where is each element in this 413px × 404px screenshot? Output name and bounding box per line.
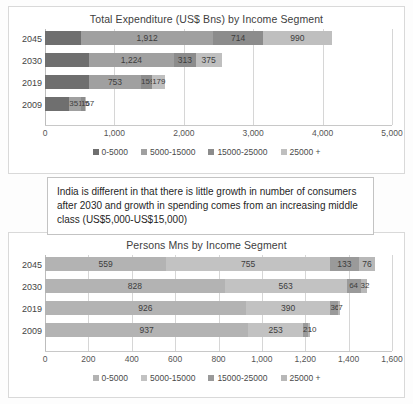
cat-label-2019: 2019 [22,305,42,314]
bar-row-2045[interactable]: 1,912 714 990 [45,31,392,45]
callout-textbox: India is different in that there is litt… [47,177,374,235]
cat-label-2019: 2019 [22,79,42,88]
bar-segment-5000-15000: 253 [248,323,303,337]
xtick: 1,400 [338,354,359,364]
legend-item-5000-15000[interactable]: 5000-15000 [141,373,195,383]
bar-segment-15000-25000: 64 [347,279,361,293]
bar-label: 32 [361,282,368,290]
bar-label: 390 [246,304,331,313]
bar-segment-25000-plus: 179 [152,75,164,89]
bar-segment-5000-15000: 351 [69,97,81,111]
legend-swatch-icon [93,375,99,381]
bar-segment-15000-25000: 714 [213,31,263,45]
chart-title-expenditure: Total Expenditure (US$ Bns) by Income Se… [9,7,404,25]
cat-label-2045: 2045 [22,35,42,44]
bar-label: 64 [347,282,361,290]
legend-persons: 0-5000 5000-15000 15000-25000 25000 + [9,373,404,383]
xtick: 0 [43,128,48,138]
bar-segment-0-5000 [45,53,89,67]
bar-row-2019[interactable]: 926 390 36 7 [45,301,392,315]
gridline [392,29,393,125]
cat-label-2030: 2030 [22,283,42,292]
bar-label: 714 [213,34,263,43]
xtick: 1,200 [295,354,316,364]
xtick: 1,000 [104,128,125,138]
plot-area-expenditure: 1,912 714 990 1,224 313 [45,29,392,125]
legend-swatch-icon [141,149,147,155]
bar-segment-5000-15000: 1,224 [89,53,174,67]
legend-label: 25000 + [290,373,321,383]
bar-label: 133 [330,260,359,269]
bar-label: 253 [248,326,303,335]
bar-label: 10 [308,326,310,334]
xtick: 3,000 [243,128,264,138]
legend-swatch-icon [281,375,287,381]
value-axis-persons: 0 200 400 600 800 1,000 1,200 1,400 1,60… [45,351,392,368]
bar-row-2019[interactable]: 753 159 179 [45,75,392,89]
bar-segment-5000-15000: 1,912 [81,31,214,45]
legend-label: 25000 + [290,147,321,157]
legend-item-0-5000[interactable]: 0-5000 [93,373,128,383]
expenditure-chart: Total Expenditure (US$ Bns) by Income Se… [8,6,405,174]
xtick: 0 [43,354,48,364]
legend-item-15000-25000[interactable]: 15000-25000 [208,147,267,157]
bar-label: 753 [89,78,141,87]
legend-label: 15000-25000 [217,373,267,383]
bar-segment-15000-25000: 313 [174,53,196,67]
bar-label: 828 [45,282,225,291]
bar-label: 926 [45,304,246,313]
xtick: 1,000 [251,354,272,364]
bar-segment-15000-25000: 133 [330,257,359,271]
bar-segment-5000-15000: 753 [89,75,141,89]
xtick: 4,000 [312,128,333,138]
legend-swatch-icon [281,149,287,155]
bar-segment-25000-plus: 375 [196,53,222,67]
bar-segment-25000-plus: 990 [263,31,332,45]
bar-segment-15000-25000: 159 [141,75,152,89]
bar-segment-0-5000: 828 [45,279,225,293]
bar-row-2030[interactable]: 828 563 64 32 [45,279,392,293]
legend-item-0-5000[interactable]: 0-5000 [93,147,128,157]
value-axis-expenditure: 0 1,000 2,000 3,000 4,000 5,000 [45,125,392,142]
bar-label: 563 [225,282,347,291]
xtick: 800 [211,354,225,364]
bar-segment-0-5000: 926 [45,301,246,315]
chart-title-persons: Persons Mns by Income Segment [9,233,404,251]
legend-item-5000-15000[interactable]: 5000-15000 [141,147,195,157]
cat-label-2030: 2030 [22,57,42,66]
bar-segment-5000-15000: 563 [225,279,347,293]
legend-item-25000-plus[interactable]: 25000 + [281,147,321,157]
xtick: 5,000 [381,128,402,138]
bar-segment-0-5000 [45,75,89,89]
gridline [392,255,393,351]
bar-label: 375 [196,56,222,65]
bar-segment-0-5000 [45,31,81,45]
plot-expenditure: 2045 2030 2019 2009 1,912 [9,29,404,125]
bar-segment-25000-plus: 32 [361,279,368,293]
bar-label: 937 [45,326,248,335]
legend-swatch-icon [208,375,214,381]
bar-label: 1,912 [81,34,214,43]
bar-row-2009[interactable]: 937 253 21 10 [45,323,392,337]
plot-area-persons: 559 755 133 76 828 [45,255,392,351]
legend-item-15000-25000[interactable]: 15000-25000 [208,373,267,383]
bar-label: 76 [359,260,375,269]
persons-chart: Persons Mns by Income Segment 2045 2030 … [8,232,405,398]
xtick: 400 [125,354,139,364]
bar-row-2030[interactable]: 1,224 313 375 [45,53,392,67]
legend-label: 0-5000 [102,147,128,157]
legend-item-25000-plus[interactable]: 25000 + [281,373,321,383]
legend-label: 15000-25000 [217,147,267,157]
bar-segment-5000-15000: 755 [166,257,330,271]
legend-expenditure: 0-5000 5000-15000 15000-25000 25000 + [9,147,404,157]
xtick: 600 [168,354,182,364]
cat-label-2045: 2045 [22,261,42,270]
legend-label: 5000-15000 [150,373,195,383]
bar-label: 1,224 [89,56,174,65]
bar-segment-0-5000: 937 [45,323,248,337]
bar-row-2009[interactable]: 351 167 5 [45,97,392,111]
category-axis-expenditure: 2045 2030 2019 2009 [9,29,45,125]
bar-row-2045[interactable]: 559 755 133 76 [45,257,392,271]
legend-label: 0-5000 [102,373,128,383]
bar-label: 36 [330,304,338,312]
